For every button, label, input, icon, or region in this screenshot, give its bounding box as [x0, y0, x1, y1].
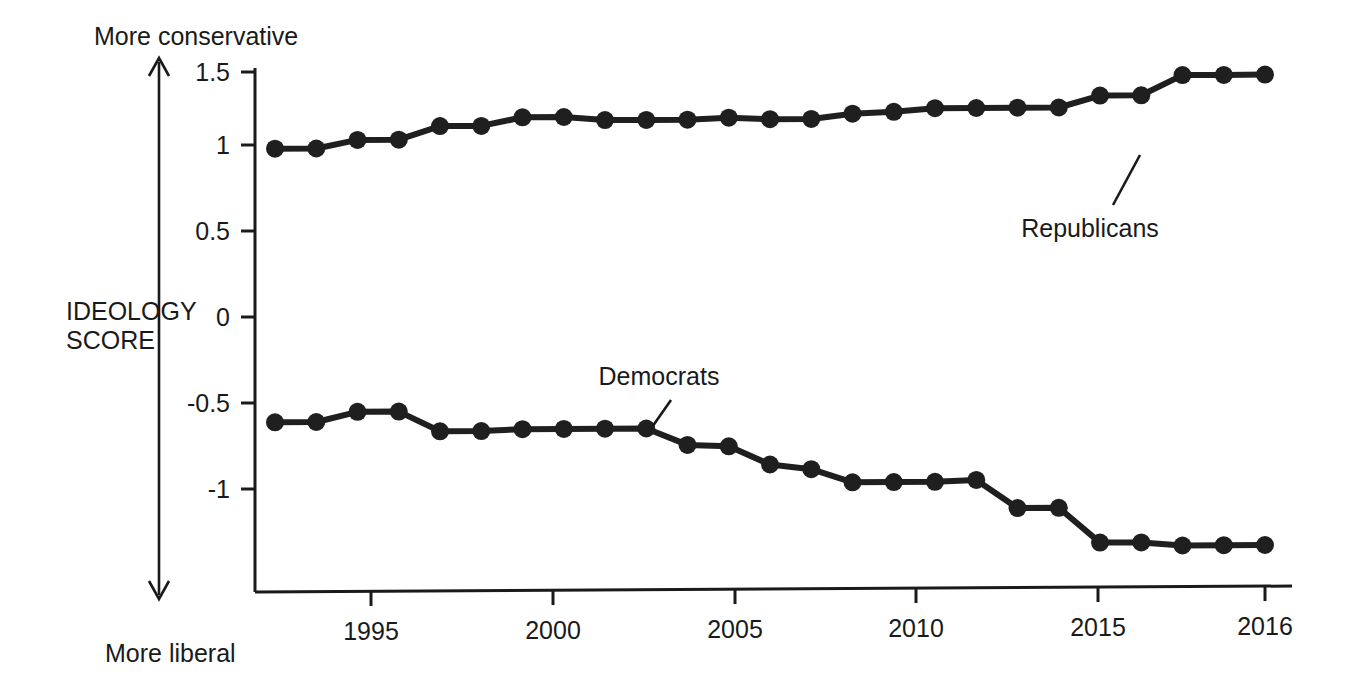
- data-point: [761, 456, 779, 474]
- data-point: [349, 131, 367, 149]
- data-point: [720, 437, 738, 455]
- data-point: [844, 105, 862, 123]
- data-point: [1050, 99, 1068, 117]
- data-point: [720, 109, 738, 127]
- data-point: [596, 420, 614, 438]
- x-axis-line: [255, 586, 1292, 592]
- y-axis-label-line1: IDEOLOGY: [66, 297, 197, 325]
- data-point: [266, 413, 284, 431]
- data-point: [802, 460, 820, 478]
- data-point: [431, 422, 449, 440]
- data-point: [349, 403, 367, 421]
- data-point: [1215, 536, 1233, 554]
- more-conservative-label: More conservative: [94, 22, 298, 50]
- data-point: [1009, 99, 1027, 117]
- y-tick-label-1: 1: [216, 131, 230, 159]
- data-point: [514, 420, 532, 438]
- x-tick-label-2000: 2000: [525, 616, 581, 644]
- data-point: [1132, 533, 1150, 551]
- data-point: [1174, 66, 1192, 84]
- y-tick-label--0.5: -0.5: [187, 389, 230, 417]
- data-point: [844, 473, 862, 491]
- data-point: [761, 110, 779, 128]
- republicans-series-label: Republicans: [1021, 214, 1159, 242]
- y-tick-label-0.5: 0.5: [195, 217, 230, 245]
- y-axis-label-line2: SCORE: [66, 326, 155, 354]
- data-point: [1132, 86, 1150, 104]
- data-point: [390, 403, 408, 421]
- data-point: [266, 140, 284, 158]
- x-tick-label-2016: 2016: [1237, 612, 1293, 640]
- x-tick-label-2005: 2005: [707, 615, 763, 643]
- data-point: [1215, 66, 1233, 84]
- data-point: [967, 471, 985, 489]
- x-tick-label-1995: 1995: [343, 617, 399, 645]
- data-point: [514, 108, 532, 126]
- data-point: [1256, 66, 1274, 84]
- republicans-leader-line: [1113, 155, 1140, 205]
- data-point: [1256, 536, 1274, 554]
- data-point: [1091, 534, 1109, 552]
- data-point: [472, 422, 490, 440]
- ideology-score-chart: More conservative More liberal IDEOLOGY …: [0, 0, 1348, 699]
- data-point: [885, 103, 903, 121]
- data-point: [307, 140, 325, 158]
- y-tick-label-0: 0: [216, 303, 230, 331]
- data-point: [472, 117, 490, 135]
- data-point: [679, 436, 697, 454]
- data-point: [926, 99, 944, 117]
- data-point: [431, 117, 449, 135]
- chart-svg: More conservative More liberal IDEOLOGY …: [0, 0, 1348, 699]
- data-point: [390, 131, 408, 149]
- data-point: [1174, 537, 1192, 555]
- y-axis-ticks: [241, 72, 255, 489]
- data-point: [307, 413, 325, 431]
- data-point: [885, 473, 903, 491]
- data-point: [1091, 87, 1109, 105]
- series-layer: [266, 66, 1274, 555]
- data-point: [926, 473, 944, 491]
- x-tick-label-2010: 2010: [888, 614, 944, 642]
- data-point: [555, 108, 573, 126]
- data-point: [555, 420, 573, 438]
- data-point: [596, 111, 614, 129]
- data-point: [1009, 499, 1027, 517]
- series-line-democrats: [275, 412, 1265, 546]
- y-tick-label--1: -1: [208, 475, 230, 503]
- y-tick-label-1.5: 1.5: [195, 58, 230, 86]
- data-point: [679, 111, 697, 129]
- data-point: [1050, 499, 1068, 517]
- data-point: [637, 111, 655, 129]
- data-point: [967, 99, 985, 117]
- more-liberal-label: More liberal: [105, 639, 236, 667]
- data-point: [802, 110, 820, 128]
- democrats-leader-line: [650, 400, 671, 430]
- x-tick-label-2015: 2015: [1070, 613, 1126, 641]
- democrats-series-label: Democrats: [599, 362, 720, 390]
